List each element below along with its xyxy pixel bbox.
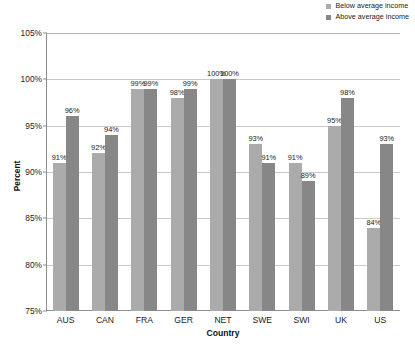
bar-value-label: 98%: [340, 88, 355, 97]
bar-group: 91%89%: [282, 33, 321, 311]
x-axis-tick-label: SWI: [282, 311, 321, 325]
bar: 93%: [380, 144, 393, 311]
bar-group: 92%94%: [85, 33, 124, 311]
bar-groups: 91%96%92%94%99%99%98%99%100%100%93%91%91…: [46, 33, 400, 311]
bar: 91%: [262, 163, 275, 311]
bar: 84%: [367, 228, 380, 311]
bar-group: 99%99%: [125, 33, 164, 311]
bar-value-label: 95%: [327, 116, 342, 125]
bar: 100%: [223, 79, 236, 311]
x-axis-tick-label: AUS: [46, 311, 85, 325]
plot-wrapper: Percent 105%100%95%90%85%80%75% 91%96%92…: [0, 0, 415, 351]
x-axis-tick-label: US: [361, 311, 400, 325]
bar: 89%: [302, 181, 315, 311]
bar-value-label: 99%: [183, 79, 198, 88]
bar-value-label: 99%: [143, 79, 158, 88]
bar-chart: Below average incomeAbove average income…: [0, 0, 415, 351]
y-axis-tick-label: 80%: [2, 260, 42, 270]
bar-value-label: 93%: [248, 134, 263, 143]
y-axis-tick-label: 90%: [2, 167, 42, 177]
bar-value-label: 98%: [170, 88, 185, 97]
bar: 98%: [171, 98, 184, 311]
x-axis-tick-label: FRA: [125, 311, 164, 325]
bar-value-label: 84%: [366, 218, 381, 227]
bar-group: 98%99%: [164, 33, 203, 311]
bar: 94%: [105, 135, 118, 311]
bar: 98%: [341, 98, 354, 311]
bar: 99%: [131, 89, 144, 311]
bar-value-label: 89%: [301, 171, 316, 180]
bar: 93%: [249, 144, 262, 311]
x-axis-tick-labels: AUSCANFRAGERNETSWESWIUKUS: [46, 311, 400, 325]
bar: 99%: [144, 89, 157, 311]
bar-group: 84%93%: [361, 33, 400, 311]
y-axis-tick-label: 105%: [2, 28, 42, 38]
bar-value-label: 91%: [52, 153, 67, 162]
bar-value-label: 93%: [379, 134, 394, 143]
bar-group: 91%96%: [46, 33, 85, 311]
x-axis-title: Country: [46, 328, 400, 338]
bar: 91%: [53, 163, 66, 311]
bar-value-label: 92%: [91, 143, 106, 152]
y-axis-tick-label: 75%: [2, 306, 42, 316]
x-axis-tick-label: CAN: [85, 311, 124, 325]
bar: 99%: [184, 89, 197, 311]
bar-value-label: 91%: [261, 153, 276, 162]
y-axis-tick-label: 100%: [2, 74, 42, 84]
x-axis-tick-label: UK: [321, 311, 360, 325]
bar-value-label: 96%: [65, 106, 80, 115]
bar-value-label: 94%: [104, 125, 119, 134]
x-axis-tick-label: SWE: [243, 311, 282, 325]
bar-group: 93%91%: [243, 33, 282, 311]
x-axis-tick-label: NET: [203, 311, 242, 325]
bar: 95%: [328, 126, 341, 311]
bar-value-label: 100%: [220, 69, 239, 78]
bar-group: 95%98%: [321, 33, 360, 311]
bar-value-label: 91%: [288, 153, 303, 162]
bar: 100%: [210, 79, 223, 311]
bar: 91%: [289, 163, 302, 311]
y-axis-tick-label: 95%: [2, 121, 42, 131]
y-axis-tick-label: 85%: [2, 213, 42, 223]
bar: 96%: [66, 116, 79, 311]
bar-group: 100%100%: [203, 33, 242, 311]
x-axis-tick-label: GER: [164, 311, 203, 325]
bar: 92%: [92, 153, 105, 311]
